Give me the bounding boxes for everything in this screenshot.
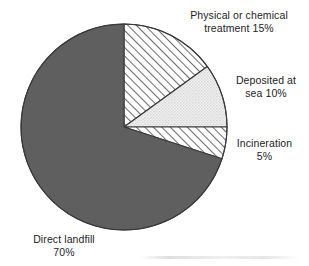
slice-label-incineration: Incineration 5%	[222, 137, 307, 162]
pie-chart: Physical or chemical treatment 15% Depos…	[0, 0, 309, 266]
slice-label-direct-landfill: Direct landfill 70%	[12, 233, 116, 258]
slice-label-deposited-at-sea: Deposited at sea 10%	[225, 74, 307, 99]
slice-label-physical-or-chemical-treatment: Physical or chemical treatment 15%	[171, 9, 307, 34]
scan-artifact	[140, 256, 300, 259]
pie-chart-canvas	[0, 0, 309, 266]
pie-slice-group	[21, 24, 227, 230]
